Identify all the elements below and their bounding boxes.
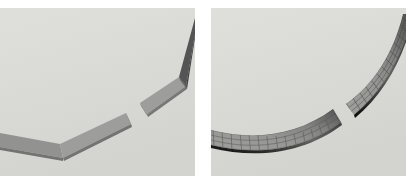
left-panel (0, 8, 195, 176)
right-panel-grain (211, 8, 406, 176)
right-panel (211, 8, 406, 176)
figure-container (0, 0, 406, 183)
left-panel-canvas (0, 8, 195, 176)
right-panel-canvas (211, 8, 406, 176)
left-panel-grain (0, 8, 195, 176)
panel-gap (197, 0, 209, 168)
